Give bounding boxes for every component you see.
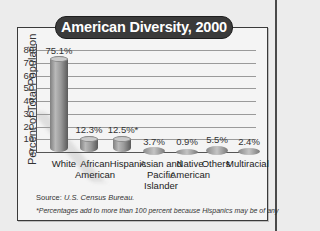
- y-tick: 70: [22, 58, 34, 68]
- bar-multiracial: [238, 148, 260, 155]
- y-tick: 20: [22, 122, 34, 132]
- value-label-hispanic: 12.5%*: [103, 124, 143, 135]
- bar-white: [50, 56, 68, 152]
- bar-hispanic: [113, 136, 131, 152]
- y-tick: 40: [22, 96, 34, 106]
- footnote: *Percentages add to more than 100 percen…: [36, 207, 280, 214]
- y-tick: 0: [22, 147, 34, 157]
- value-label-multiracial: 2.4%: [229, 136, 269, 147]
- gridline-40: [36, 101, 256, 102]
- bar-others: [206, 146, 228, 155]
- y-tick: 10: [22, 134, 34, 144]
- gridline-60: [36, 76, 256, 77]
- source-note: Source: U.S. Census Bureau.: [36, 193, 134, 202]
- gridline-50: [36, 88, 256, 89]
- category-multiracial: Multiracial: [226, 158, 268, 169]
- gridline-70: [36, 63, 256, 64]
- y-tick: 60: [22, 71, 34, 81]
- bar-native-american: [176, 149, 198, 155]
- bar-asian-pacific-islander: [143, 147, 165, 155]
- y-tick: 30: [22, 109, 34, 119]
- y-axis: [36, 44, 37, 153]
- plot-area: 80 70 60 50 40 30 20 10 0 75.1% 12.3% 12…: [36, 50, 260, 152]
- y-tick: 80: [22, 45, 34, 55]
- y-tick: 50: [22, 83, 34, 93]
- chart-title: American Diversity, 2000: [55, 16, 233, 39]
- bar-african-american: [80, 136, 98, 152]
- value-label-white: 75.1%: [39, 45, 79, 56]
- gridline-30: [36, 114, 256, 115]
- page-edge: [275, 0, 277, 231]
